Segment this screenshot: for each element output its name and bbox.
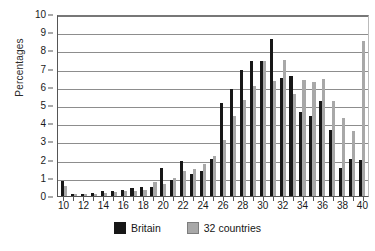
- bar-group: [99, 16, 109, 196]
- bar-countries: [243, 100, 246, 196]
- y-axis-tick-mark: [48, 51, 53, 52]
- bar-group: [119, 16, 129, 196]
- bar-countries: [213, 156, 216, 196]
- bar-countries: [223, 140, 226, 196]
- x-axis-tick-label: 28: [237, 199, 248, 215]
- y-axis-tick-label: 8: [40, 46, 46, 56]
- x-axis-tick-label: 38: [337, 199, 348, 215]
- x-axis-tick-label: [149, 199, 158, 215]
- x-axis-tick-label: 24: [197, 199, 208, 215]
- bar-group: [228, 16, 238, 196]
- chart-legend: Britain 32 countries: [0, 222, 375, 234]
- legend-label-32-countries: 32 countries: [204, 223, 261, 234]
- y-axis-tick-mark: [48, 160, 53, 161]
- bar-group: [188, 16, 198, 196]
- bar-countries: [332, 101, 335, 196]
- bar-countries: [322, 79, 325, 196]
- bar-group: [158, 16, 168, 196]
- y-axis-tick-label: 0: [40, 192, 46, 202]
- bar-group: [327, 16, 337, 196]
- plot-area: [57, 15, 369, 197]
- x-axis-tick-label: 16: [118, 199, 129, 215]
- y-axis-tick-mark: [48, 15, 53, 16]
- bar-countries: [84, 194, 87, 196]
- y-axis-tick-mark: [48, 197, 53, 198]
- bar-group: [278, 16, 288, 196]
- bar-group: [89, 16, 99, 196]
- bar-group: [307, 16, 317, 196]
- y-axis-tick-mark: [48, 124, 53, 125]
- bar-countries: [352, 131, 355, 196]
- legend-swatch-32-countries: [187, 222, 199, 234]
- bar-chart: Percentages 012345678910 10 12 14 16 18 …: [0, 0, 375, 251]
- bar-countries: [293, 94, 296, 196]
- y-axis-tick-label: 3: [40, 137, 46, 147]
- legend-item-britain: Britain: [114, 222, 161, 234]
- bar-group: [178, 16, 188, 196]
- bar-countries: [124, 191, 127, 196]
- bar-group: [198, 16, 208, 196]
- y-axis-tick-label: 2: [40, 156, 46, 166]
- x-axis-tick-label: 18: [138, 199, 149, 215]
- bar-group: [248, 16, 258, 196]
- bar-group: [59, 16, 69, 196]
- bar-group: [258, 16, 268, 196]
- x-axis-tick-label: [109, 199, 118, 215]
- legend-swatch-britain: [114, 222, 126, 234]
- bar-group: [268, 16, 278, 196]
- x-axis-tick-label: [288, 199, 297, 215]
- bar-countries: [253, 86, 256, 196]
- x-axis-tick-label: [348, 199, 357, 215]
- y-axis-tick-label: 5: [40, 101, 46, 111]
- y-axis-tick-label: 1: [40, 174, 46, 184]
- x-axis-tick-label: [129, 199, 138, 215]
- bar-countries: [342, 118, 345, 196]
- x-axis-tick-label: [69, 199, 78, 215]
- x-axis-tick-label: 40: [357, 199, 368, 215]
- bar-countries: [263, 61, 266, 196]
- bar-group: [148, 16, 158, 196]
- bar-group: [238, 16, 248, 196]
- bar-countries: [173, 178, 176, 196]
- bar-countries: [203, 164, 206, 196]
- x-axis-tick-label: [308, 199, 317, 215]
- bar-countries: [362, 41, 365, 196]
- x-axis-tick-label: 12: [78, 199, 89, 215]
- bar-countries: [312, 82, 315, 196]
- y-axis-tick-label: 6: [40, 83, 46, 93]
- y-axis-tick-mark: [48, 142, 53, 143]
- legend-item-32-countries: 32 countries: [187, 222, 261, 234]
- bar-countries: [74, 194, 77, 196]
- y-axis-tick-labels: 012345678910: [0, 15, 55, 197]
- bar-countries: [153, 182, 156, 196]
- x-axis-tick-label: [328, 199, 337, 215]
- legend-label-britain: Britain: [131, 223, 161, 234]
- bar-group: [288, 16, 298, 196]
- bar-countries: [193, 169, 196, 196]
- bar-group: [347, 16, 357, 196]
- bar-countries: [94, 194, 97, 196]
- bar-group: [218, 16, 228, 196]
- bar-countries: [64, 186, 67, 196]
- bar-group: [109, 16, 119, 196]
- y-axis-tick-label: 4: [40, 119, 46, 129]
- bar-countries: [114, 192, 117, 196]
- y-axis-tick-mark: [48, 33, 53, 34]
- bar-group: [129, 16, 139, 196]
- bar-group: [298, 16, 308, 196]
- bar-group: [208, 16, 218, 196]
- x-axis-tick-label: [229, 199, 238, 215]
- bar-groups: [58, 16, 368, 196]
- x-axis-tick-label: 32: [277, 199, 288, 215]
- bar-group: [139, 16, 149, 196]
- x-axis-tick-label: 20: [158, 199, 169, 215]
- x-axis-tick-label: 36: [317, 199, 328, 215]
- y-axis-tick-label: 10: [35, 10, 46, 20]
- bar-countries: [302, 80, 305, 196]
- x-axis-tick-label: [169, 199, 178, 215]
- bar-countries: [233, 116, 236, 196]
- x-axis-tick-label: [268, 199, 277, 215]
- bar-countries: [143, 190, 146, 196]
- bar-group: [69, 16, 79, 196]
- bar-group: [357, 16, 367, 196]
